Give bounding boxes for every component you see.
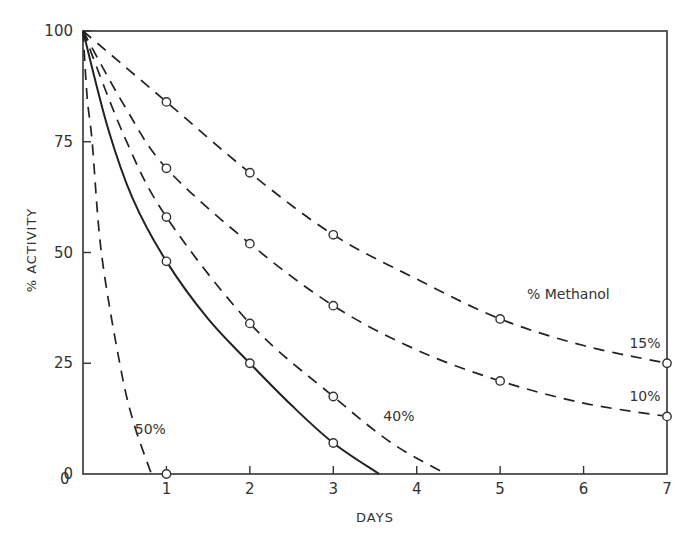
y-tick-label: 75 xyxy=(54,133,73,151)
data-point-marker xyxy=(246,169,254,177)
activity-vs-days-chart: 0255075100 1234567 0 DAYS % ACTIVITY 15%… xyxy=(0,0,694,545)
data-point-marker xyxy=(162,164,170,172)
data-point-marker xyxy=(329,439,337,447)
data-point-marker xyxy=(162,257,170,265)
series-line xyxy=(83,31,667,363)
x-origin-label: 0 xyxy=(60,470,70,488)
data-point-marker xyxy=(329,231,337,239)
data-point-marker xyxy=(246,239,254,247)
series-label: 50% xyxy=(135,421,166,437)
series-line xyxy=(83,31,151,474)
data-point-marker xyxy=(246,359,254,367)
x-tick-label: 3 xyxy=(329,480,339,498)
data-point-marker xyxy=(663,412,671,420)
data-point-marker xyxy=(663,359,671,367)
x-tick-label: 4 xyxy=(412,480,422,498)
series-curves xyxy=(83,31,667,474)
legend-title: % Methanol xyxy=(527,286,610,302)
data-point-marker xyxy=(496,377,504,385)
x-tick-label: 1 xyxy=(162,480,172,498)
x-tick-label: 7 xyxy=(662,480,672,498)
data-point-marker xyxy=(329,301,337,309)
data-point-marker xyxy=(496,315,504,323)
y-axis: 0255075100 xyxy=(44,22,91,483)
y-axis-title: % ACTIVITY xyxy=(24,208,39,293)
series-label: 40% xyxy=(383,408,414,424)
x-tick-label: 2 xyxy=(245,480,255,498)
series-labels: 15%10%40%50% xyxy=(135,335,661,437)
x-tick-label: 5 xyxy=(495,480,505,498)
data-point-marker xyxy=(162,470,170,478)
plot-frame xyxy=(83,31,667,474)
data-point-marker xyxy=(162,213,170,221)
y-tick-label: 100 xyxy=(44,22,73,40)
series-line xyxy=(83,31,379,474)
data-point-marker xyxy=(162,98,170,106)
y-tick-label: 50 xyxy=(54,244,73,262)
x-axis: 1234567 xyxy=(162,466,672,498)
data-point-marker xyxy=(329,392,337,400)
x-axis-title: DAYS xyxy=(356,510,394,525)
data-point-marker xyxy=(246,319,254,327)
series-label: 15% xyxy=(629,335,660,351)
x-tick-label: 6 xyxy=(579,480,589,498)
y-tick-label: 25 xyxy=(54,354,73,372)
series-label: 10% xyxy=(629,388,660,404)
